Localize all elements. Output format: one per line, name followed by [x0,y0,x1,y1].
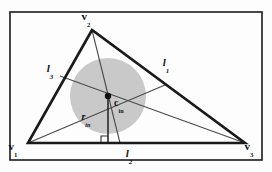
incenter-point [105,93,111,99]
side-label-l1-sub: 1 [166,67,169,74]
side-label-l3-sub: 3 [49,73,54,80]
side-label-l2-sub: 2 [128,158,133,165]
vertex-label-v2-sub: 2 [87,21,91,28]
vertex-label-v1-sub: 1 [14,151,18,158]
figure-container: v1 v2 v3 l1 l2 l3 cin rin [0,0,272,172]
incenter-label-sub: in [118,107,124,114]
inradius-label-sub: in [85,121,91,128]
vertex-label-v3-sub: 3 [250,151,254,158]
triangle-incircle-diagram: v1 v2 v3 l1 l2 l3 cin rin [0,0,272,172]
